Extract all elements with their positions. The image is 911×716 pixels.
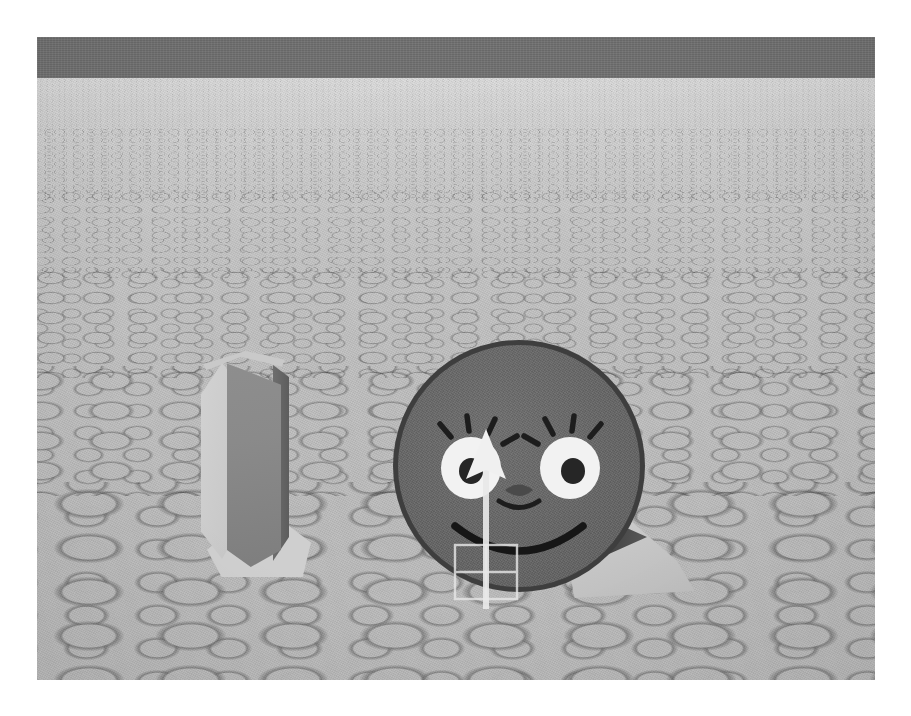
scene-viewport[interactable] bbox=[37, 37, 875, 680]
page-root bbox=[0, 0, 911, 716]
sky-noise-overlay bbox=[37, 37, 875, 78]
panel-top-rim bbox=[203, 351, 285, 373]
heading-arrow-shaft bbox=[483, 461, 489, 609]
sky-band bbox=[37, 37, 875, 78]
scene-overlay bbox=[367, 367, 607, 637]
panel-front-face bbox=[227, 355, 281, 567]
cobblestone-band-4 bbox=[37, 190, 875, 278]
overlay-gizmos[interactable] bbox=[367, 367, 607, 637]
panel-object[interactable] bbox=[183, 327, 323, 577]
